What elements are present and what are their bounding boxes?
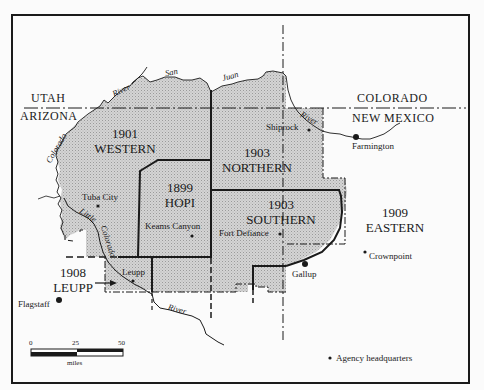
region-northern: 1903 NORTHERN	[212, 145, 302, 175]
label-farmington: Farmington	[352, 142, 394, 151]
region-hopi-name: HOPI	[155, 195, 205, 210]
map-canvas	[0, 0, 484, 390]
region-eastern-year: 1909	[360, 205, 430, 220]
region-hopi-year: 1899	[155, 180, 205, 195]
region-southern: 1903 SOUTHERN	[236, 197, 326, 227]
region-hopi: 1899 HOPI	[155, 180, 205, 210]
label-colorado: COLORADO	[357, 92, 428, 104]
region-western: 1901 WESTERN	[90, 126, 160, 156]
region-eastern: 1909 EASTERN	[360, 205, 430, 235]
region-southern-year: 1903	[236, 197, 326, 212]
label-fort-defiance: Fort Defiance	[219, 229, 269, 238]
legend-dot	[328, 356, 331, 359]
tuba-city-dot	[96, 204, 99, 207]
scale-unit: miles	[67, 360, 82, 367]
region-leupp: 1908 LEUPP	[48, 265, 98, 295]
region-northern-year: 1903	[212, 145, 302, 160]
label-new-mexico: NEW MEXICO	[352, 112, 434, 124]
region-western-name: WESTERN	[90, 141, 160, 156]
scale-bar-black-left	[31, 352, 77, 356]
crownpoint-dot	[363, 250, 366, 253]
region-northern-name: NORTHERN	[212, 160, 302, 175]
label-tuba-city: Tuba City	[82, 193, 118, 202]
scale-tick-50: 50	[118, 340, 125, 347]
fort-defiance-dot	[278, 232, 281, 235]
region-eastern-name: EASTERN	[360, 220, 430, 235]
keams-canyon-dot	[190, 234, 193, 237]
label-crownpoint: Crownpoint	[369, 252, 412, 261]
label-arizona: ARIZONA	[20, 110, 78, 122]
farmington-dot	[353, 134, 359, 140]
label-leupp: Leupp	[122, 268, 145, 277]
scale-bar-black-right-top	[77, 349, 123, 352]
scale-tick-25: 25	[72, 340, 79, 347]
scale-tick-0: 0	[29, 340, 33, 347]
label-keams-canyon: Keams Canyon	[145, 222, 200, 231]
region-leupp-name: LEUPP	[48, 280, 98, 295]
flagstaff-dot	[56, 297, 62, 303]
leupp-dot	[131, 279, 134, 282]
region-leupp-year: 1908	[48, 265, 98, 280]
label-flagstaff: Flagstaff	[18, 300, 50, 309]
label-gallup: Gallup	[292, 270, 317, 279]
tributary-line	[38, 196, 60, 199]
gallup-dot	[302, 261, 308, 267]
region-western-year: 1901	[90, 126, 160, 141]
shiprock-dot	[307, 128, 310, 131]
legend-agency-hq: Agency headquarters	[336, 354, 412, 363]
label-utah: UTAH	[31, 92, 65, 104]
region-southern-name: SOUTHERN	[236, 212, 326, 227]
label-shiprock: Shiprock	[266, 123, 299, 132]
